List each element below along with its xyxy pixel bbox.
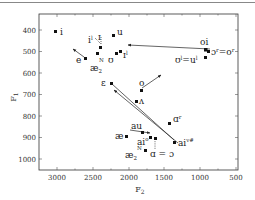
- label-oi: oi: [200, 37, 208, 47]
- point-aio: [149, 136, 152, 139]
- arrow-oi: [128, 45, 210, 49]
- y-tick-labels: 400 500 600 700 800 900 1000: [18, 27, 36, 164]
- point-U: [115, 52, 118, 55]
- point-u: [112, 34, 115, 37]
- point-I: [99, 46, 102, 49]
- formant-chart: 3000 2500 2000 1500 1000 500 400 500 600…: [0, 0, 255, 200]
- x-tick-2000: 2000: [120, 174, 138, 182]
- point-eps: [110, 82, 113, 85]
- label-or-eq: ɔr=or: [211, 47, 235, 57]
- y-tick-600: 600: [23, 70, 36, 78]
- label-eps: ɛ: [101, 78, 106, 88]
- label-N-lower: N: [137, 145, 142, 151]
- arrow-o: [142, 75, 161, 88]
- y-tick-400: 400: [23, 27, 36, 35]
- y-tick-800: 800: [23, 113, 36, 121]
- point-or: [207, 50, 210, 53]
- label-Il: ɪl: [123, 50, 128, 60]
- x-tick-2500: 2500: [84, 174, 102, 182]
- x-tick-1500: 1500: [155, 174, 173, 182]
- point-e: [84, 57, 87, 60]
- label-e: e: [76, 55, 81, 65]
- label-i-l: il: [88, 35, 93, 45]
- label-u: u: [117, 27, 123, 37]
- point-ae2N-lower: [144, 149, 147, 152]
- label-au: au: [131, 121, 142, 131]
- point-ae: [125, 135, 128, 138]
- point-i: [54, 30, 57, 33]
- point-o: [140, 89, 143, 92]
- x-tick-3000: 3000: [48, 174, 66, 182]
- y-axis-title: F1: [9, 92, 19, 101]
- y-tick-700: 700: [23, 91, 36, 99]
- point-aivth: [173, 141, 176, 144]
- x-axis-ticks: [57, 14, 236, 170]
- point-a-eq: [154, 137, 157, 140]
- x-tick-500: 500: [229, 174, 242, 182]
- label-U: ʊ: [108, 55, 114, 65]
- label-ae2-upper: æ2: [90, 63, 102, 74]
- label-ae: æ: [115, 131, 123, 141]
- y-tick-1000: 1000: [18, 156, 36, 164]
- label-a-eq-o: ɑ = ɔ: [150, 149, 174, 159]
- label-Ul-eq: ʊl=ul: [175, 55, 198, 65]
- label-aivth: aiv#: [178, 137, 194, 148]
- point-Il: [119, 50, 122, 53]
- label-i: i: [60, 27, 63, 37]
- data-points: [54, 30, 210, 152]
- label-o: o: [139, 78, 144, 88]
- point-labels: i u il ɪ e N æ2 ʊ ɪl oi ɔr=or ʊl=ul ɛ o …: [60, 27, 235, 161]
- x-tick-1000: 1000: [191, 174, 209, 182]
- point-au: [141, 131, 144, 134]
- point-ar: [168, 122, 171, 125]
- label-N-upper: N: [99, 57, 104, 63]
- label-ae2-lower: æ2: [125, 150, 137, 161]
- point-ae2N-upper: [96, 52, 99, 55]
- x-axis-title: F2: [135, 185, 145, 195]
- point-wedge: [135, 100, 138, 103]
- y-tick-900: 900: [23, 134, 36, 142]
- label-I: ɪ: [98, 32, 101, 42]
- point-oi: [204, 48, 208, 52]
- label-wedge: ʌ: [138, 96, 145, 106]
- x-tick-labels: 3000 2500 2000 1500 1000 500: [48, 174, 243, 182]
- point-Ul: [204, 56, 207, 59]
- y-tick-500: 500: [23, 48, 36, 56]
- label-ar: ɑr: [173, 114, 182, 124]
